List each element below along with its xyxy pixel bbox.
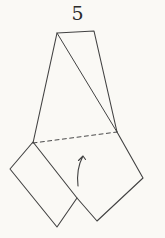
upper-shape-outline: [33, 31, 117, 143]
valley-fold-dashed-line: [33, 132, 117, 143]
origami-diagram-svg: [0, 0, 165, 238]
origami-diagram-page: 5: [0, 0, 165, 238]
right-flap-outline: [77, 132, 143, 221]
upper-shape-fold-diagonal: [57, 33, 117, 132]
left-flap-outline: [10, 142, 77, 227]
fold-direction-arrow: [78, 156, 86, 186]
